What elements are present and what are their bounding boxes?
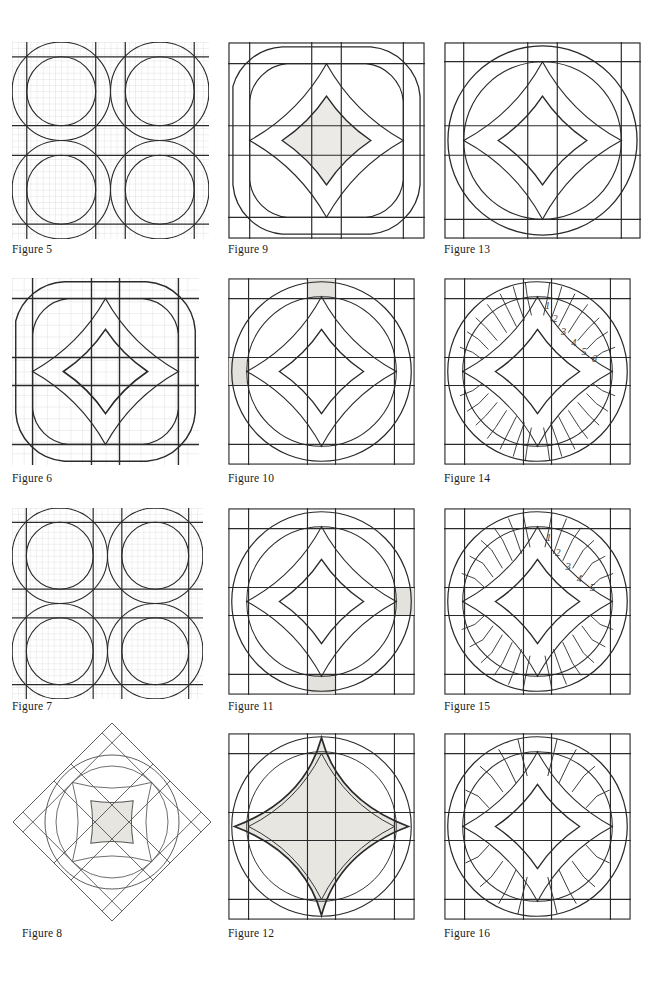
graph-paper-background [12, 278, 199, 465]
figure-12-drawing [228, 733, 415, 920]
figure-12-caption: Figure 12 [228, 927, 274, 939]
figure-16-border [445, 734, 630, 919]
fig15-number-1: 1 [546, 531, 551, 543]
figure-5-block [12, 42, 209, 239]
figure-6-block [12, 278, 199, 465]
figure-10-border [229, 279, 414, 464]
figure-13-caption: Figure 13 [444, 243, 490, 255]
figure-11-caption: Figure 11 [228, 700, 274, 712]
figure-11-drawing [228, 508, 415, 695]
figure-15-caption: Figure 15 [444, 700, 490, 712]
figure-11-block [228, 508, 415, 695]
fig15-number-3: 3 [565, 560, 571, 572]
figure-16-drawing [444, 733, 631, 920]
figure-14-block: 1 2 3 4 5 6 [444, 278, 631, 465]
fig14-number-5: 5 [581, 346, 586, 357]
graph-paper-background [12, 42, 209, 239]
fig14-number-4: 4 [571, 337, 576, 348]
figure-16-caption: Figure 16 [444, 927, 490, 939]
figure-10-caption: Figure 10 [228, 472, 274, 484]
fig15-number-5: 5 [590, 581, 596, 593]
figure-14-caption: Figure 14 [444, 472, 490, 484]
figure-5-caption: Figure 5 [12, 243, 52, 255]
figure-13-border [445, 43, 640, 238]
figure-8-caption: Figure 8 [22, 927, 62, 939]
figure-7-caption: Figure 7 [12, 700, 52, 712]
figure-15-border [445, 509, 630, 694]
figure-14-drawing: 1 2 3 4 5 6 [444, 278, 631, 465]
figure-7-block [12, 508, 203, 699]
figure-15-drawing: 1 2 3 4 5 [444, 508, 631, 695]
fig14-number-6: 6 [592, 353, 598, 364]
figure-9-block [228, 42, 425, 239]
fig14-number-2: 2 [552, 313, 557, 324]
fig14-number-1: 1 [545, 300, 550, 311]
fig15-number-4: 4 [577, 572, 583, 584]
figure-8-block [6, 722, 218, 922]
figure-5-drawing [12, 42, 209, 239]
figure-6-drawing [12, 278, 199, 465]
figure-15-block: 1 2 3 4 5 [444, 508, 631, 695]
figure-9-drawing [228, 42, 425, 239]
figure-9-caption: Figure 9 [228, 243, 268, 255]
figure-8-drawing [6, 722, 218, 922]
figure-14-border [445, 279, 630, 464]
figure-10-drawing [228, 278, 415, 465]
figure-6-caption: Figure 6 [12, 472, 52, 484]
graph-paper-background [12, 508, 203, 699]
figure-13-drawing [444, 42, 641, 239]
fig14-number-3: 3 [560, 326, 566, 337]
figure-13-block [444, 42, 641, 239]
figure-7-drawing [12, 508, 203, 699]
figure-10-block [228, 278, 415, 465]
figure-11-border [229, 509, 414, 694]
fig15-number-2: 2 [555, 546, 561, 558]
figure-12-block [228, 733, 415, 920]
figure-16-block [444, 733, 631, 920]
figure-sheet-page: Figure 5 [0, 0, 671, 982]
